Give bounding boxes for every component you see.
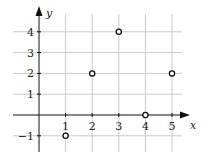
tick-labels: 12345−11234 — [18, 26, 176, 143]
y-axis-label: y — [45, 7, 53, 20]
data-point — [63, 133, 68, 138]
y-axis-arrow-icon — [36, 6, 43, 16]
data-point — [143, 112, 148, 117]
x-axis-label: x — [190, 119, 197, 132]
scatter-chart: x y 12345−11234 — [0, 0, 212, 161]
y-tick-label: 4 — [27, 26, 34, 39]
y-tick-label: 3 — [27, 47, 34, 60]
y-tick-label: −1 — [18, 130, 34, 143]
x-tick-label: 2 — [89, 120, 96, 133]
grid — [13, 14, 182, 152]
x-tick-label: 1 — [62, 120, 69, 133]
x-tick-label: 3 — [115, 120, 122, 133]
data-point — [116, 29, 121, 34]
x-tick-label: 5 — [169, 120, 176, 133]
data-point — [90, 71, 95, 76]
x-tick-label: 4 — [142, 120, 149, 133]
y-tick-label: 2 — [27, 67, 34, 80]
data-point — [169, 71, 174, 76]
x-axis-arrow-icon — [180, 112, 190, 119]
y-tick-label: 1 — [27, 88, 34, 101]
